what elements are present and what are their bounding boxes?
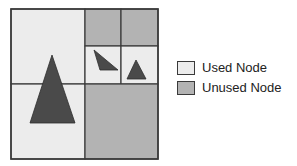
legend-item-used: Used Node — [177, 60, 267, 75]
node-top-right-nw — [85, 9, 121, 46]
node-top-right-ne — [121, 9, 158, 46]
node-bottom-right — [85, 84, 158, 159]
legend-label-used: Used Node — [202, 60, 267, 75]
quadtree-diagram — [0, 0, 170, 166]
legend-label-unused: Unused Node — [202, 80, 282, 95]
unused-node-swatch — [177, 81, 195, 95]
used-node-swatch — [177, 61, 195, 75]
legend-item-unused: Unused Node — [177, 80, 282, 95]
